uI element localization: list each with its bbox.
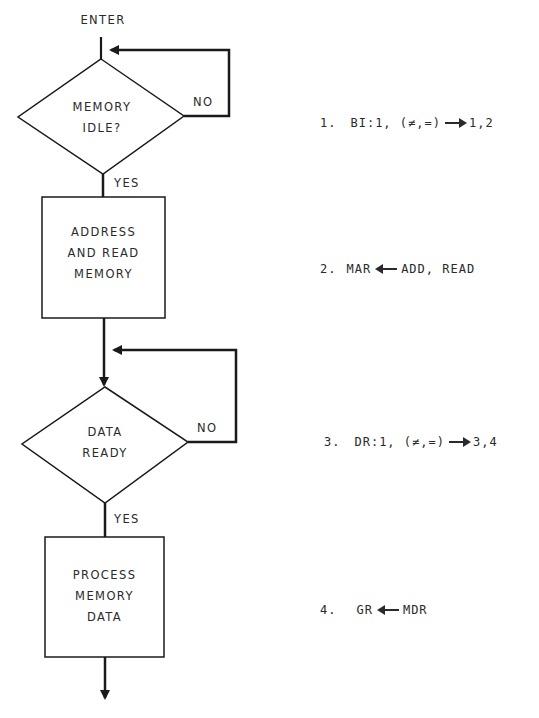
step-destination: GR bbox=[356, 603, 372, 617]
step-target: 1,2 bbox=[469, 116, 494, 130]
yes-label-1: YES bbox=[114, 173, 140, 194]
no-label-2: NO bbox=[197, 418, 217, 439]
decision-memory-idle-text: MEMORY IDLE? bbox=[60, 97, 144, 139]
step-number: 4. bbox=[320, 603, 336, 617]
step-destination: MAR bbox=[346, 262, 371, 276]
arrow-left-icon bbox=[375, 264, 397, 274]
node-line: IDLE? bbox=[60, 118, 144, 139]
decision-data-ready-text: DATA READY bbox=[63, 422, 147, 464]
step-2: 2. MAR ADD, READ bbox=[320, 262, 475, 276]
node-line: MEMORY bbox=[42, 264, 165, 285]
process-address-read-text: ADDRESS AND READ MEMORY bbox=[42, 222, 165, 285]
step-source: MDR bbox=[403, 603, 428, 617]
step-target: 3,4 bbox=[473, 435, 498, 449]
step-number: 1. bbox=[320, 116, 336, 130]
node-line: AND READ bbox=[42, 243, 165, 264]
step-number: 2. bbox=[320, 262, 336, 276]
node-line: DATA bbox=[63, 422, 147, 443]
node-line: DATA bbox=[45, 607, 164, 628]
arrow-right-icon bbox=[449, 437, 471, 447]
arrow-left-icon bbox=[377, 605, 399, 615]
step-3: 3. DR:1, (≠,=) 3,4 bbox=[324, 435, 498, 449]
step-source: ADD, READ bbox=[401, 262, 475, 276]
enter-label: ENTER bbox=[80, 10, 126, 31]
node-line: MEMORY bbox=[45, 586, 164, 607]
node-line: MEMORY bbox=[60, 97, 144, 118]
process-memory-data-text: PROCESS MEMORY DATA bbox=[45, 565, 164, 628]
arrow-right-icon bbox=[445, 118, 467, 128]
step-number: 3. bbox=[324, 435, 340, 449]
step-4: 4. GR MDR bbox=[320, 603, 428, 617]
step-1: 1. BI:1, (≠,=) 1,2 bbox=[320, 116, 494, 130]
no-label-1: NO bbox=[193, 92, 213, 113]
node-line: PROCESS bbox=[45, 565, 164, 586]
step-condition: DR:1, (≠,=) bbox=[354, 435, 444, 449]
node-line: ADDRESS bbox=[42, 222, 165, 243]
node-line: READY bbox=[63, 443, 147, 464]
step-condition: BI:1, (≠,=) bbox=[350, 116, 440, 130]
yes-label-2: YES bbox=[114, 509, 140, 530]
